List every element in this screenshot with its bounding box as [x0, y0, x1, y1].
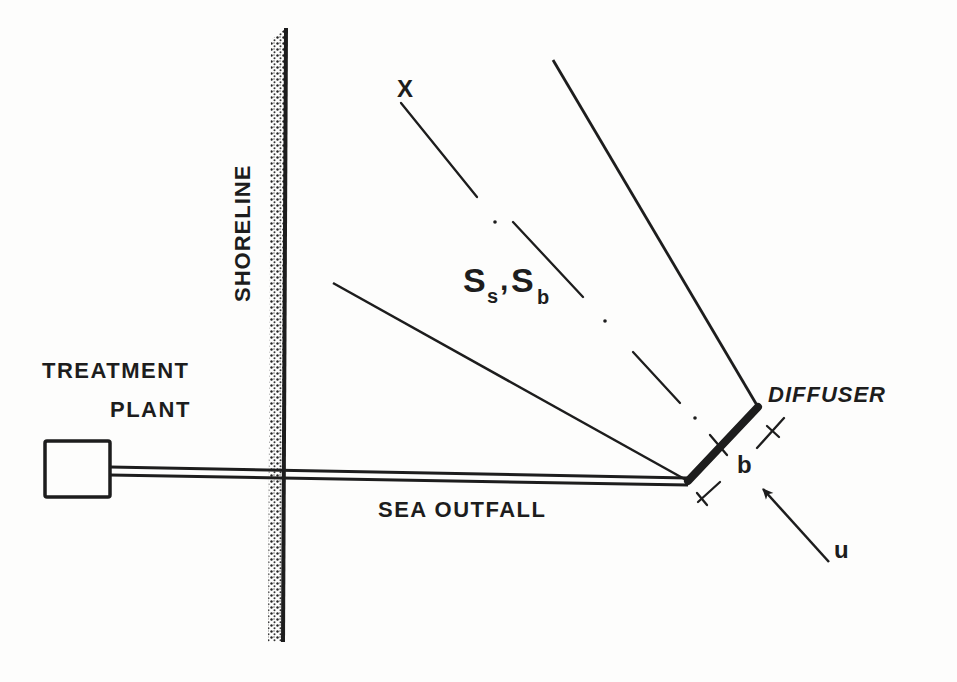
sea-outfall-label: SEA OUTFALL — [378, 497, 546, 522]
dilution-s-main-2: S — [511, 261, 534, 299]
dilution-label: S s , S b — [463, 261, 549, 308]
treatment-plant-label-line1: TREATMENT — [42, 358, 190, 383]
current-arrow — [763, 489, 829, 562]
outfall-diagram: TREATMENT PLANT SHORELINE SEA OUTFALL DI… — [0, 0, 957, 682]
sea-outfall-pipe — [110, 467, 688, 485]
current-velocity-label: u — [834, 536, 849, 563]
dilution-s-main-1: S — [463, 261, 486, 299]
centerline-axis-label: X — [397, 75, 413, 102]
diffuser-label: DIFFUSER — [768, 382, 886, 407]
diffuser-length-label: b — [737, 451, 752, 478]
dilution-separator: , — [500, 263, 508, 296]
shoreline — [268, 28, 286, 642]
dilution-sub-s: s — [487, 285, 498, 307]
dilution-sub-b: b — [537, 286, 549, 308]
treatment-plant-label-line2: PLANT — [110, 397, 191, 422]
plume-centerline — [401, 103, 697, 420]
shoreline-label: SHORELINE — [230, 165, 255, 302]
treatment-plant-box — [45, 441, 110, 497]
plume-boundary-left — [333, 283, 688, 481]
plume-boundary-right — [553, 60, 758, 407]
